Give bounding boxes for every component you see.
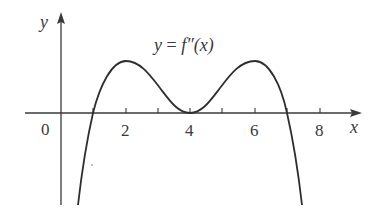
x-tick-label-6: 6 [250,121,259,140]
graph-figure: 0 2 4 6 8 x y y = f″(x) [0,0,380,211]
y-axis-label: y [38,12,48,32]
curve-label: y = f″(x) [152,35,214,56]
stray-dot [91,164,93,166]
origin-label: 0 [41,120,50,139]
x-tick-label-2: 2 [121,121,130,140]
x-tick-label-4: 4 [185,121,194,140]
x-axis-label: x [349,117,358,137]
x-tick-label-8: 8 [315,121,324,140]
